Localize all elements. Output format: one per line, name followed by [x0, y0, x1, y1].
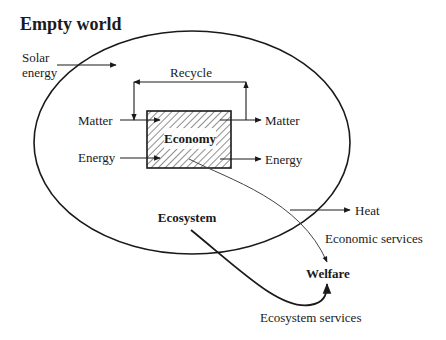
matter-output-label: Matter — [265, 113, 300, 128]
welfare-label: Welfare — [306, 266, 350, 281]
diagram-title: Empty world — [20, 14, 122, 34]
energy-input-label: Energy — [78, 150, 116, 165]
heat-label: Heat — [355, 203, 380, 218]
empty-world-diagram: Empty world Solar energy Recycle Economy… — [0, 0, 446, 340]
recycle-label: Recycle — [170, 65, 212, 80]
economy-label: Economy — [164, 131, 217, 146]
solar-energy-label-line1: Solar — [22, 50, 50, 65]
solar-energy-label-line2: energy — [22, 65, 58, 80]
matter-input-label: Matter — [78, 113, 113, 128]
ecosystem-services-label: Ecosystem services — [260, 310, 361, 325]
economic-services-label: Economic services — [325, 231, 423, 246]
energy-output-label: Energy — [265, 152, 303, 167]
ecosystem-label: Ecosystem — [158, 210, 217, 225]
